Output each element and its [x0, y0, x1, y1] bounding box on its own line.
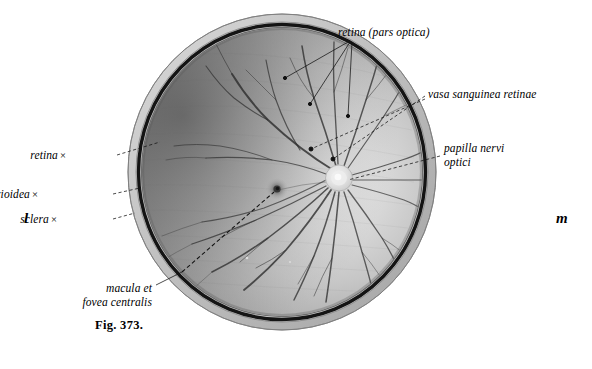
leader-endpoint [283, 76, 286, 79]
label-cross-marker: × [49, 214, 57, 225]
label-retina-pars-optica: retina (pars optica) [338, 26, 430, 40]
label-line: macula et [82, 282, 152, 296]
leader-endpoint-vessel [309, 147, 313, 151]
label-vasa-sanguinea-retinae: vasa sanguinea retinae [428, 88, 536, 102]
fundus-highlight [289, 261, 291, 263]
label-macula-et-fovea-centralis: macula etfovea centralis [82, 282, 152, 309]
label-line: retina (pars optica) [338, 26, 430, 40]
eye-globe [128, 10, 440, 340]
label-line: vasa sanguinea retinae [428, 88, 536, 102]
fundus-highlight [246, 257, 249, 260]
label-line: optici [444, 156, 504, 170]
figure-caption: Fig. 373. [95, 318, 143, 333]
leader-endpoint-vessel [331, 157, 335, 161]
label-chorioidea: chorioidea× [0, 188, 38, 202]
label-papilla-nervi-optici: papilla nervioptici [444, 142, 504, 169]
leader-endpoint [308, 102, 311, 105]
label-line: chorioidea× [0, 188, 38, 202]
papilla-nervi-optici-disc [326, 165, 353, 191]
label-cross-marker: × [30, 189, 38, 200]
leader-sclera [113, 213, 135, 219]
figure-plate [0, 0, 592, 369]
label-line: papilla nervi [444, 142, 504, 156]
leader-endpoint [346, 114, 349, 117]
label-line: retina× [30, 149, 66, 163]
label-cross-marker: × [58, 150, 66, 161]
orientation-mark-lateral: l [24, 210, 28, 227]
label-line: fovea centralis [82, 296, 152, 310]
label-retina: retina× [30, 149, 66, 163]
orientation-mark-medial: m [556, 210, 568, 227]
